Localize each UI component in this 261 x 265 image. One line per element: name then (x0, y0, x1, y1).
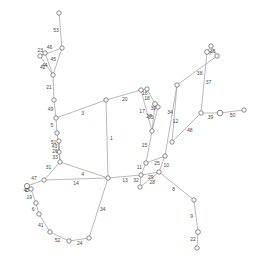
graph-edge (194, 200, 198, 232)
graph-node[interactable] (192, 198, 196, 202)
edge-label: 28 (150, 179, 156, 185)
edge-label: 10 (163, 162, 169, 168)
edge-label: 23 (37, 47, 43, 53)
graph-node[interactable] (196, 230, 201, 235)
edge-label: 14 (73, 180, 79, 186)
edge-label: 31 (46, 164, 52, 170)
edge-label: 19 (26, 194, 32, 200)
graph-node[interactable] (199, 111, 203, 115)
edge-label: 8 (172, 186, 175, 192)
edge-label: 1 (110, 135, 113, 141)
graph-node[interactable] (87, 236, 91, 240)
edge-label: 48 (187, 127, 193, 133)
graph-node[interactable] (48, 230, 52, 234)
edge-label: 18 (144, 95, 150, 101)
edge-label: 11 (137, 164, 142, 170)
edge-label: 17 (139, 108, 145, 114)
graph-edge (59, 13, 62, 48)
graph-node[interactable] (58, 160, 62, 164)
graph-node[interactable] (170, 140, 174, 144)
edge-label: 34 (167, 109, 173, 115)
graph-node[interactable] (104, 98, 108, 102)
graph-node[interactable] (242, 108, 246, 112)
graph-svg: 5346234245214955143333147401964152243441… (0, 0, 261, 265)
graph-node[interactable] (138, 185, 142, 189)
edge-label: 26 (52, 148, 58, 154)
edge-label: 13 (122, 177, 128, 183)
edge-label: 3 (81, 110, 84, 116)
graph-node[interactable] (57, 11, 61, 15)
edge-label: 53 (53, 27, 59, 33)
edge-label: 5 (51, 122, 54, 128)
graph-node[interactable] (51, 73, 55, 77)
edge-label: 22 (190, 236, 196, 242)
edge-label: 49 (48, 106, 54, 112)
graph-node[interactable] (163, 154, 167, 158)
graph-node[interactable] (54, 116, 58, 120)
edge-label: 7 (209, 50, 212, 56)
graph-edge (54, 100, 56, 118)
edge-label: 2 (25, 187, 28, 193)
edge-label: 15 (142, 142, 148, 148)
edge-label: 38 (197, 70, 203, 76)
graph-node[interactable] (175, 83, 179, 87)
edge-label: 33 (52, 154, 58, 160)
edge-label: 41 (38, 222, 44, 228)
edge-label: 37 (206, 79, 212, 85)
graph-node[interactable] (29, 187, 33, 191)
edge-label: 46 (47, 44, 53, 50)
graph-node[interactable] (156, 105, 160, 109)
graph-node[interactable] (43, 51, 47, 55)
graph-node[interactable] (37, 212, 41, 216)
edge-label: 45 (50, 56, 56, 62)
edge-label: 6 (32, 206, 35, 212)
graph-node[interactable] (217, 110, 223, 116)
graph-node[interactable] (106, 176, 110, 180)
graph-node[interactable] (34, 201, 38, 205)
graph-edge (53, 75, 54, 100)
graph-node[interactable] (52, 98, 56, 102)
edge-label: 34 (100, 206, 106, 212)
edge-label: 39 (208, 114, 214, 120)
graph-node[interactable] (157, 170, 161, 174)
graph-node[interactable] (42, 178, 46, 182)
graph-node[interactable] (55, 131, 59, 135)
graph-canvas: 5346234245214955143333147401964152243441… (0, 0, 261, 265)
edge-label: 32 (133, 177, 139, 183)
graph-node[interactable] (195, 246, 199, 250)
graph-node[interactable] (60, 46, 64, 50)
nodes-layer (24, 11, 246, 250)
edge-label: 21 (46, 84, 52, 90)
graph-node[interactable] (139, 173, 143, 177)
graph-node[interactable] (38, 54, 42, 58)
edge-label: 9 (190, 213, 193, 219)
graph-node[interactable] (57, 139, 61, 143)
edge-label: 44 (42, 62, 48, 68)
edge-label: 30 (151, 105, 157, 111)
edge-label: 12 (173, 118, 179, 124)
graph-edge (106, 100, 108, 178)
graph-node[interactable] (67, 239, 71, 243)
edge-label: 52 (55, 237, 61, 243)
edge-label: 20 (122, 96, 128, 102)
edge-label: 25 (154, 160, 160, 166)
edge-label: 27 (146, 113, 152, 119)
graph-node[interactable] (144, 161, 148, 165)
edge-label: 4 (81, 171, 84, 177)
graph-node[interactable] (150, 129, 154, 133)
edge-labels-layer: 5346234245214955143333147401964152243441… (24, 27, 236, 246)
graph-node[interactable] (215, 54, 219, 58)
edge-label: 47 (31, 175, 37, 181)
graph-edge (60, 162, 108, 178)
graph-edge (159, 172, 194, 200)
edge-label: 50 (230, 112, 236, 118)
edge-label: 24 (77, 240, 83, 246)
